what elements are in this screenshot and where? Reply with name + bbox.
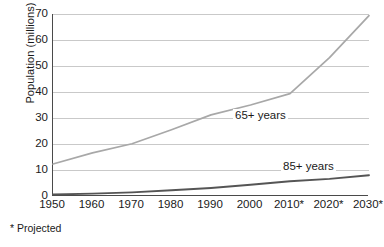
gridlines: [53, 15, 369, 171]
x-axis-tick-labels: 1950196019701980199020002010*2020*2030*: [0, 198, 384, 216]
y-tick-label: 70: [20, 8, 48, 20]
y-tick-label: 60: [20, 34, 48, 46]
series-label-85-plus: 85+ years: [281, 160, 336, 172]
x-tick-label: 2030*: [338, 198, 384, 211]
y-tick-label: 20: [20, 138, 48, 150]
population-projection-line-chart: Population (millions) 706050403020100 65…: [0, 0, 384, 247]
y-tick-label: 10: [20, 164, 48, 176]
footnote-projected: * Projected: [10, 222, 61, 234]
y-tick-label: 50: [20, 60, 48, 72]
series-line-85-years: [53, 175, 369, 194]
series-label-65-plus: 65+ years: [233, 109, 288, 121]
y-tick-label: 30: [20, 112, 48, 124]
y-tick-label: 40: [20, 86, 48, 98]
series-line-65-years: [53, 16, 369, 164]
